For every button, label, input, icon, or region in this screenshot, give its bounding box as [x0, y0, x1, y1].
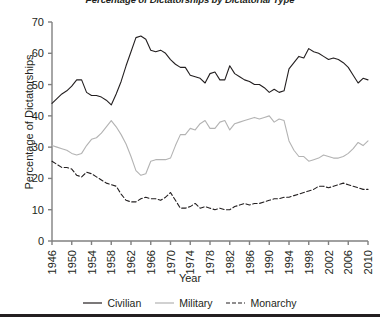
footer-divider — [0, 314, 380, 317]
chart-legend: Civilian Military Monarchy — [0, 297, 380, 309]
x-axis-label: Year — [0, 272, 380, 284]
x-tick-label: 1974 — [184, 250, 196, 274]
x-tick-label: 1950 — [66, 250, 78, 274]
x-tick-label: 1990 — [263, 250, 275, 274]
x-tick-label: 1954 — [86, 250, 98, 274]
legend-swatch-military-icon — [155, 299, 174, 307]
legend-item-monarchy[interactable]: Monarchy — [226, 297, 296, 309]
legend-item-civilian[interactable]: Civilian — [83, 297, 141, 309]
x-tick-label: 2002 — [323, 250, 335, 274]
series-line-monarchy — [52, 161, 368, 209]
legend-swatch-monarchy-icon — [226, 299, 245, 307]
x-tick-label: 1998 — [303, 250, 315, 274]
legend-label-civilian: Civilian — [107, 297, 141, 309]
legend-label-military: Military — [179, 297, 212, 309]
chart-figure: Percentage of Dictatorships by Dictatori… — [0, 0, 380, 323]
x-axis: 1946195019541958196219661970197419781982… — [46, 241, 374, 274]
x-tick-label: 1978 — [204, 250, 216, 274]
x-tick-label: 1994 — [283, 250, 295, 274]
x-tick-label: 1982 — [224, 250, 236, 274]
data-series-group — [52, 36, 368, 210]
x-tick-label: 2006 — [342, 250, 354, 274]
series-line-military — [52, 116, 368, 175]
y-tick-label: 0 — [38, 235, 44, 247]
line-chart-svg: 010203040506070 194619501954195819621966… — [0, 0, 380, 290]
series-line-civilian — [52, 36, 368, 105]
x-tick-label: 2010 — [362, 250, 374, 274]
plot-area: 010203040506070 194619501954195819621966… — [0, 0, 380, 290]
x-tick-label: 1962 — [125, 250, 137, 274]
y-axis-label: Percentage of Dictatorships — [23, 27, 35, 217]
x-tick-label: 1970 — [165, 250, 177, 274]
x-tick-label: 1966 — [145, 250, 157, 274]
legend-swatch-civilian-icon — [83, 299, 102, 307]
x-tick-label: 1986 — [244, 250, 256, 274]
x-tick-label: 1958 — [105, 250, 117, 274]
legend-label-monarchy: Monarchy — [250, 297, 296, 309]
legend-item-military[interactable]: Military — [155, 297, 212, 309]
x-tick-label: 1946 — [46, 250, 58, 274]
